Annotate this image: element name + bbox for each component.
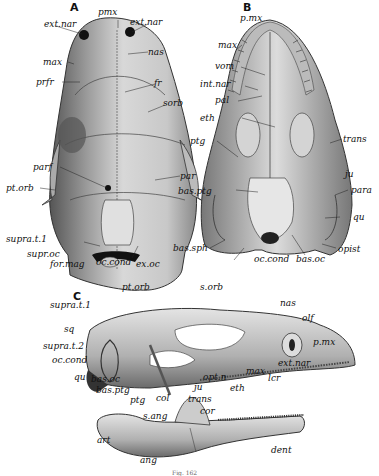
label-b-pmx: p.mx	[240, 13, 262, 23]
label-a-sorb: sorb	[163, 98, 183, 108]
label-c-bas-oc: bas.oc	[91, 374, 120, 384]
label-c-ju: ju	[194, 382, 203, 392]
label-b-bas-ptg: bas.ptg	[178, 186, 212, 196]
label-a-suproc: supr.oc	[27, 249, 60, 259]
label-b-int-nar: int.nar	[200, 79, 231, 89]
label-c-art: art	[97, 435, 110, 445]
label-b-bas-sph: bas.sph	[173, 243, 208, 253]
label-b-eth: eth	[200, 113, 215, 123]
label-c-dent: dent	[271, 445, 292, 455]
label-c-eth: eth	[230, 383, 245, 393]
label-c-qu: qu	[74, 372, 86, 382]
label-c-opt-n: opt.n	[203, 372, 226, 382]
label-b-max: max	[218, 40, 237, 50]
label-b-qu: qu	[353, 212, 365, 222]
label-c-pt-orb: pt.orb	[122, 282, 150, 292]
label-c-bas-ptg: bas.ptg	[96, 385, 130, 395]
label-c-ptg: ptg	[130, 395, 145, 405]
label-a-nas: nas	[148, 47, 164, 57]
label-c-nas: nas	[280, 298, 296, 308]
label-c-s-orb: s.orb	[200, 282, 223, 292]
label-b-para: para	[351, 185, 372, 195]
label-a-ext-nar-left: ext.nar	[44, 19, 76, 29]
label-a-max: max	[43, 57, 62, 67]
label-c-ang: ang	[140, 455, 157, 465]
label-c-cor: cor	[200, 406, 215, 416]
label-a-fr: fr	[154, 78, 162, 88]
label-c-s-ang: s.ang	[143, 411, 167, 421]
label-b-ptg: ptg	[190, 136, 205, 146]
panel-c-skull-lateral	[86, 308, 355, 395]
label-a-for-mag: for.mag	[50, 259, 85, 269]
label-b-vom: vom	[215, 61, 234, 71]
label-c-lcr: lcr	[268, 373, 280, 383]
label-a-parf: parf	[33, 162, 52, 172]
label-a-supra-t1: supra.t.1	[6, 234, 47, 244]
figure-caption: Fig. 162	[172, 469, 197, 476]
label-b-bas-oc: bas.oc	[296, 254, 325, 264]
label-a-pt-orb: pt.orb	[6, 183, 34, 193]
label-c-ext-nar: ext.nar	[278, 358, 310, 368]
label-c-trans: trans	[188, 394, 212, 404]
label-a-par: par	[180, 171, 195, 181]
label-b-pal: pal	[215, 95, 229, 105]
label-c-oc-cond: oc.cond	[52, 355, 87, 365]
label-a-pmx: pmx	[98, 7, 117, 17]
panel-b-skull-ventral	[201, 20, 352, 255]
label-b-ju: ju	[345, 169, 354, 179]
label-a-ext-nar-right: ext.nar	[130, 17, 162, 27]
panel-letter-a: A	[70, 1, 79, 14]
label-b-oc-cond: oc.cond	[254, 254, 289, 264]
label-a-prfr: prfr	[36, 77, 54, 87]
label-c-col: col	[156, 393, 169, 403]
label-b-opist: opist	[338, 244, 360, 254]
label-c-olf: olf	[302, 313, 314, 323]
label-a-ex-oc: ex.oc	[136, 259, 160, 269]
label-b-trans: trans	[343, 134, 367, 144]
label-a-oc-cond: oc.cond	[96, 257, 131, 267]
label-c-supra-t1: supra.t.1	[50, 300, 91, 310]
label-c-pmx: p.mx	[313, 337, 335, 347]
label-c-sq: sq	[64, 324, 74, 334]
label-c-supra-t2: supra.t.2	[43, 341, 84, 351]
label-c-max: max	[246, 366, 265, 376]
